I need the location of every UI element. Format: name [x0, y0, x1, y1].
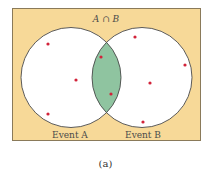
intersection-label: A ∩ B — [92, 14, 120, 24]
sample-point — [46, 112, 49, 115]
sample-point — [99, 55, 102, 58]
sample-point — [183, 63, 186, 66]
sample-point — [74, 78, 77, 81]
sample-point — [148, 81, 151, 84]
event-b-label: Event B — [125, 130, 161, 140]
sample-point — [133, 35, 136, 38]
venn-diagram: A ∩ B Event A Event B — [0, 0, 211, 176]
sample-point — [109, 92, 112, 95]
sample-point — [46, 42, 49, 45]
sample-point — [141, 120, 144, 123]
event-a-label: Event A — [52, 130, 88, 140]
figure-caption: (a) — [0, 158, 211, 169]
